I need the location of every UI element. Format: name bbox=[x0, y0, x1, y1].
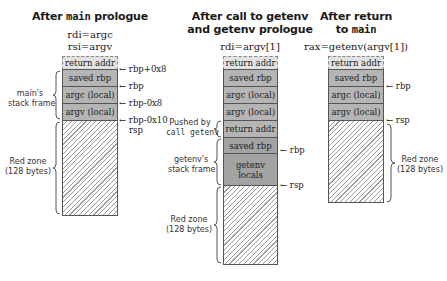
pointer-rbp-minus-0x8: ← rbp-0x8 bbox=[119, 98, 162, 108]
red-zone-area bbox=[328, 120, 384, 203]
red-zone-area bbox=[223, 185, 278, 265]
label-red-zone: Red zone (128 bytes) bbox=[164, 215, 214, 235]
register-rsi: rsi=argv bbox=[50, 41, 130, 53]
pointer-rbp: ← rbp bbox=[280, 145, 305, 155]
stack-cell-saved-rbp: saved rbp bbox=[62, 69, 118, 87]
pointer-rsp: ← rsp bbox=[280, 180, 304, 190]
brace-red-zone bbox=[214, 187, 222, 263]
panel2-title: After call to getenv and getenv prologue bbox=[180, 10, 320, 36]
brace-red-zone bbox=[387, 124, 395, 202]
stack-cell-saved-rbp: saved rbp bbox=[328, 69, 384, 87]
code-main: main bbox=[66, 10, 91, 22]
register-rdi: rdi=argv[1] bbox=[205, 41, 295, 53]
panel1-title: After main prologue bbox=[20, 10, 160, 23]
panel3-title: After return to main bbox=[306, 10, 406, 36]
pointer-rbp: ← rbp bbox=[119, 81, 144, 91]
stack-cell-argc-local: argc (local) bbox=[223, 86, 278, 104]
brace-getenv-frame bbox=[214, 139, 222, 185]
stack-cell-argv-local: argv (local) bbox=[62, 103, 118, 121]
label-red-zone: Red zone (128 bytes) bbox=[395, 155, 445, 175]
stack-cell-argc-local: argc (local) bbox=[328, 86, 384, 104]
pointer-rbp-plus-0x8: ← rbp+0x8 bbox=[119, 64, 167, 74]
code-main: main bbox=[352, 23, 377, 35]
stack-cell-return-addr: return addr bbox=[223, 56, 278, 70]
register-rdi: rdi=argc bbox=[50, 29, 130, 41]
pointer-rbp-minus-0x10: ← rbp-0x10 bbox=[119, 115, 168, 125]
stack-cell-saved-rbp: saved rbp bbox=[223, 69, 278, 87]
label-main-stack-frame: main's stack frame bbox=[8, 89, 52, 109]
brace-red-zone bbox=[53, 122, 61, 214]
label-red-zone: Red zone (128 bytes) bbox=[4, 157, 52, 177]
label-getenv-stack-frame: getenv's stack frame bbox=[168, 155, 214, 175]
pointer-rbp: ← rbp bbox=[386, 81, 411, 91]
stack-cell-return-addr: return addr bbox=[328, 56, 384, 70]
code-call-getenv: call getenv bbox=[166, 128, 214, 138]
stack-cell-argv-local: argv (local) bbox=[223, 103, 278, 121]
stack-cell-argc-local: argc (local) bbox=[62, 86, 118, 104]
red-zone-area bbox=[62, 120, 118, 216]
stack-cell-return-addr: return addr bbox=[62, 56, 118, 70]
stack-cell-getenv-locals: getenv locals bbox=[223, 153, 278, 186]
stack-cell-saved-rbp-getenv: saved rbp bbox=[223, 137, 278, 154]
pointer-rsp: rsp bbox=[129, 125, 143, 135]
stack-cell-return-addr-getenv: return addr bbox=[223, 120, 278, 138]
brace-main-frame bbox=[53, 71, 61, 119]
label-pushed-by-call-getenv: Pushed by call getenv bbox=[166, 118, 214, 138]
register-rax: rax=getenv(argv[1]) bbox=[300, 41, 412, 53]
stack-cell-argv-local: argv (local) bbox=[328, 103, 384, 121]
